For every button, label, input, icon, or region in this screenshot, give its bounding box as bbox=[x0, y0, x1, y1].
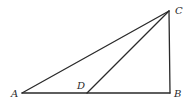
segment-dc bbox=[87, 11, 169, 93]
triangle-diagram: A B C D bbox=[0, 0, 192, 110]
point-label-c: C bbox=[175, 5, 183, 16]
point-label-d: D bbox=[76, 80, 85, 91]
point-label-a: A bbox=[10, 88, 18, 99]
segment-ac bbox=[22, 11, 169, 93]
triangle-svg: A B C D bbox=[0, 0, 192, 110]
point-label-b: B bbox=[173, 88, 181, 99]
segment-bc bbox=[169, 11, 170, 93]
segments-group bbox=[22, 11, 170, 93]
